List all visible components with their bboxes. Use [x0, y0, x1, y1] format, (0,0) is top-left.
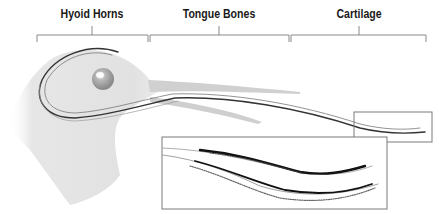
bracket-hyoid-horns [37, 26, 148, 42]
label-tongue-bones: Tongue Bones [183, 7, 256, 21]
hummingbird-illustration [0, 0, 439, 214]
bracket-cartilage [291, 26, 426, 42]
eye-icon [92, 68, 114, 90]
bracket-tongue-bones [150, 26, 289, 42]
label-hyoid-horns: Hyoid Horns [61, 7, 124, 21]
label-cartilage: Cartilage [336, 7, 381, 21]
label-brackets [37, 26, 426, 42]
diagram-canvas: Hyoid Horns Tongue Bones Cartilage [0, 0, 439, 214]
inset-large-box [162, 137, 387, 209]
